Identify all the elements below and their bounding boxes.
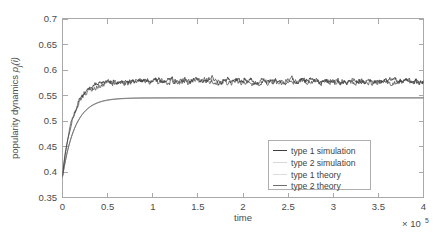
- y-tick-label: 0.55: [39, 90, 58, 101]
- y-tick-label: 0.45: [39, 141, 58, 152]
- y-axis-title: popularity dynamics pj(i): [9, 57, 23, 159]
- y-tick-label: 0.7: [44, 13, 57, 24]
- legend-label-type-1-simulation: type 1 simulation: [291, 146, 356, 156]
- x-tick-label: 0: [60, 201, 65, 212]
- chart-svg: 0.35 0.4 0.45 0.5 0.55 0.6 0.65 0.7: [0, 0, 444, 242]
- x-multiplier-exponent: 5: [425, 217, 429, 224]
- y-tick-label: 0.5: [44, 115, 57, 126]
- y-axis-title-text: popularity dynamics: [9, 72, 20, 159]
- x-tick-label: 1.5: [191, 201, 204, 212]
- x-tick-label: 4: [421, 201, 426, 212]
- x-tick-label: 0.5: [101, 201, 114, 212]
- y-tick-label: 0.4: [44, 166, 57, 177]
- x-tick-label: 3: [331, 201, 336, 212]
- y-tick-label: 0.65: [39, 39, 58, 50]
- x-tick-label: 3.5: [372, 201, 385, 212]
- x-tick-label: 1: [150, 201, 155, 212]
- x-tick-label: 2.5: [281, 201, 294, 212]
- x-tick-label: 2: [240, 201, 245, 212]
- figure-container: 0.35 0.4 0.45 0.5 0.55 0.6 0.65 0.7: [0, 0, 444, 242]
- y-tick-label: 0.6: [44, 64, 57, 75]
- legend-label-type-2-theory: type 2 theory: [291, 181, 341, 191]
- y-tick-label: 0.35: [39, 192, 58, 203]
- x-axis-title: time: [234, 212, 252, 223]
- legend-label-type-1-theory: type 1 theory: [291, 170, 341, 180]
- x-multiplier-base: × 10: [402, 218, 421, 229]
- x-axis-multiplier: × 10 5: [402, 217, 429, 230]
- x-axis-ticks: 0 0.5 1 1.5 2 2.5 3 3.5 4: [60, 19, 426, 212]
- legend: type 1 simulation type 2 simulation type…: [269, 141, 371, 191]
- svg-text:popularity dynamics pj(i): popularity dynamics pj(i): [9, 57, 23, 159]
- legend-label-type-2-simulation: type 2 simulation: [291, 158, 356, 168]
- y-axis-title-arg: (i): [9, 57, 20, 65]
